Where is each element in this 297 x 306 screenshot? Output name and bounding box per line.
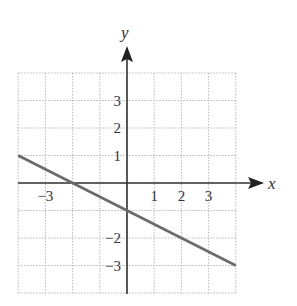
x-tick-label: 2 (178, 188, 186, 204)
y-tick-label: −2 (105, 230, 121, 246)
y-tick-label: 3 (114, 93, 122, 109)
coordinate-plane: x y −3123321−2−3 (0, 0, 297, 306)
axes: x y (18, 23, 276, 294)
y-tick-label: −3 (105, 258, 121, 274)
x-tick-label: 3 (205, 188, 213, 204)
y-axis-label: y (119, 23, 129, 42)
y-tick-label: 1 (114, 148, 122, 164)
y-tick-label: 2 (114, 120, 122, 136)
x-axis-label: x (267, 174, 276, 193)
x-tick-label: 1 (150, 188, 158, 204)
x-tick-label: −3 (37, 188, 53, 204)
